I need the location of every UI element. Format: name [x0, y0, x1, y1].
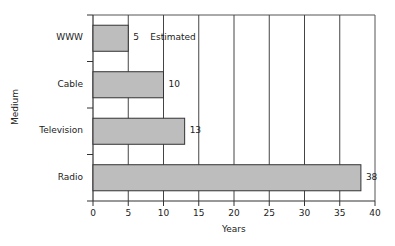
value-label: 10: [169, 79, 180, 89]
bar-chart: 0510152025303540WWW5Cable10Television13R…: [0, 0, 395, 246]
x-tick-label: 10: [154, 208, 174, 218]
bar-television: [93, 118, 185, 144]
annotation-estimated: Estimated: [150, 32, 195, 42]
y-axis-title: Medium: [10, 89, 20, 125]
x-axis-title: Years: [222, 224, 246, 234]
bar-cable: [93, 72, 164, 98]
category-label: Television: [3, 125, 83, 135]
x-tick-label: 25: [259, 208, 279, 218]
value-label: 38: [366, 172, 377, 182]
x-tick-label: 30: [295, 208, 315, 218]
x-tick-label: 35: [330, 208, 350, 218]
x-tick-label: 0: [83, 208, 103, 218]
value-label: 5: [133, 32, 139, 42]
bar-www: [93, 25, 128, 51]
category-label: WWW: [3, 32, 83, 42]
x-tick-label: 40: [365, 208, 385, 218]
value-label: 13: [190, 125, 201, 135]
category-label: Radio: [3, 172, 83, 182]
category-label: Cable: [3, 79, 83, 89]
x-tick-label: 5: [118, 208, 138, 218]
bar-radio: [93, 165, 361, 191]
x-tick-label: 20: [224, 208, 244, 218]
x-tick-label: 15: [189, 208, 209, 218]
